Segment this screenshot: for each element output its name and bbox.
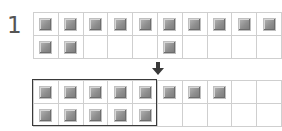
- grid-cell: [133, 81, 158, 104]
- grid-cell: [34, 81, 59, 104]
- unit-block: [163, 86, 176, 99]
- unit-block: [64, 109, 77, 122]
- grid-cell: [232, 13, 257, 36]
- grid-cell: [158, 81, 183, 104]
- bottom-grid: [33, 80, 282, 127]
- grid-cell: [232, 36, 257, 59]
- step-number: 1: [7, 12, 22, 38]
- grid-cell: [108, 13, 133, 36]
- grid-cell: [34, 13, 59, 36]
- grid-cell: [108, 81, 133, 104]
- unit-block: [39, 109, 52, 122]
- unit-block: [139, 86, 152, 99]
- grid-cell: [158, 36, 183, 59]
- unit-block: [39, 86, 52, 99]
- grid-cell: [133, 104, 158, 127]
- grid-cell: [183, 81, 208, 104]
- unit-block: [114, 109, 127, 122]
- grid-cell: [232, 104, 257, 127]
- down-arrow-icon: [152, 62, 164, 75]
- grid-cell: [84, 36, 109, 59]
- unit-block: [139, 109, 152, 122]
- grid-cell: [59, 104, 84, 127]
- grid-cell: [257, 104, 282, 127]
- grid-cell: [133, 13, 158, 36]
- grid-cell: [232, 81, 257, 104]
- grid-cell: [257, 81, 282, 104]
- unit-block: [139, 18, 152, 31]
- grid-cell: [84, 81, 109, 104]
- grid-cell: [158, 104, 183, 127]
- grid-cell: [34, 104, 59, 127]
- grid-cell: [84, 13, 109, 36]
- grid-cell: [183, 13, 208, 36]
- unit-block: [39, 41, 52, 54]
- grid-cell: [208, 104, 233, 127]
- unit-block: [213, 18, 226, 31]
- unit-block: [188, 86, 201, 99]
- grid-cell: [59, 13, 84, 36]
- grid-cell: [59, 36, 84, 59]
- unit-block: [64, 41, 77, 54]
- unit-block: [64, 18, 77, 31]
- unit-block: [89, 109, 102, 122]
- grid-cell: [108, 104, 133, 127]
- unit-block: [39, 18, 52, 31]
- unit-block: [89, 18, 102, 31]
- unit-block: [163, 18, 176, 31]
- grid-cell: [208, 36, 233, 59]
- unit-block: [163, 41, 176, 54]
- grid-cell: [158, 13, 183, 36]
- unit-block: [114, 18, 127, 31]
- grid-cell: [183, 36, 208, 59]
- grid-cell: [133, 36, 158, 59]
- grid-cell: [183, 104, 208, 127]
- unit-block: [263, 18, 276, 31]
- grid-cell: [108, 36, 133, 59]
- grid-cell: [208, 13, 233, 36]
- unit-block: [188, 18, 201, 31]
- grid-cell: [257, 36, 282, 59]
- grid-cell: [59, 81, 84, 104]
- unit-block: [238, 18, 251, 31]
- unit-block: [64, 86, 77, 99]
- grid-cell: [257, 13, 282, 36]
- grid-cell: [34, 36, 59, 59]
- top-grid: [33, 12, 282, 59]
- unit-block: [213, 86, 226, 99]
- unit-block: [89, 86, 102, 99]
- grid-cell: [208, 81, 233, 104]
- grid-cell: [84, 104, 109, 127]
- unit-block: [114, 86, 127, 99]
